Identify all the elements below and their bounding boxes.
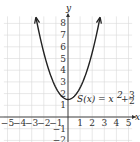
y-tick-label: −1 bbox=[53, 124, 66, 134]
y-axis-label: y bbox=[65, 3, 72, 13]
x-tick-label: 1 bbox=[77, 118, 83, 128]
y-tick-label: −2 bbox=[53, 135, 66, 142]
tick-labels: −5−4−3−2−112345−2−112345678 bbox=[1, 18, 132, 142]
y-tick-label: 8 bbox=[60, 18, 66, 28]
y-tick-label: 3 bbox=[60, 77, 66, 87]
function-text: S(x) = x bbox=[77, 94, 114, 104]
y-tick-label: 5 bbox=[60, 54, 66, 64]
function-graph: −5−4−3−2−112345−2−112345678 y x S(x) = x… bbox=[0, 0, 140, 142]
y-tick-label: 4 bbox=[60, 65, 66, 75]
x-tick-label: 3 bbox=[101, 118, 107, 128]
x-axis-label: x bbox=[135, 112, 140, 122]
y-tick-label: 1 bbox=[60, 100, 66, 110]
x-tick-label: 2 bbox=[89, 118, 95, 128]
y-tick-label: 6 bbox=[60, 42, 66, 52]
fraction-denominator: 2 bbox=[129, 96, 135, 106]
x-tick-label: 4 bbox=[114, 118, 120, 128]
function-label: S(x) = x 2 + 3 2 bbox=[77, 90, 135, 106]
x-tick-label: 5 bbox=[126, 118, 132, 128]
y-tick-label: 7 bbox=[60, 30, 66, 40]
function-plus: + bbox=[121, 94, 129, 104]
